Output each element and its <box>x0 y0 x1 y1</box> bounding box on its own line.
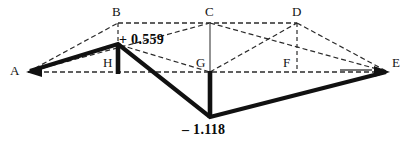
ordinate-value-negative: – 1.118 <box>182 123 225 137</box>
node-label-g: G <box>196 56 205 69</box>
node-label-b: B <box>112 5 121 18</box>
node-label-f: F <box>283 56 290 69</box>
construction-line-c-e <box>210 23 388 72</box>
node-label-a: A <box>10 64 19 77</box>
influence-line-figure: A B C D E F G H + 0.559 – 1.118 <box>0 0 410 148</box>
node-label-h: H <box>103 56 112 69</box>
node-label-e: E <box>392 56 400 69</box>
node-label-c: C <box>205 5 214 18</box>
node-label-d: D <box>292 5 301 18</box>
ordinate-value-positive: + 0.559 <box>119 33 164 47</box>
arrowhead-at-e <box>374 66 390 77</box>
construction-line-d-e <box>297 23 388 72</box>
